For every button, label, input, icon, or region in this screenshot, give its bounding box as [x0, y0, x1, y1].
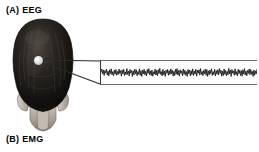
scalp-electrode-icon	[34, 56, 43, 65]
figure-panel: (A) EEG	[0, 0, 259, 152]
eeg-waveform	[101, 61, 257, 84]
panel-label-a: (A) EEG	[6, 5, 42, 15]
head-illustration	[10, 16, 76, 132]
eeg-trace-panel	[100, 60, 257, 85]
panel-label-b: (B) EMG	[6, 134, 44, 144]
